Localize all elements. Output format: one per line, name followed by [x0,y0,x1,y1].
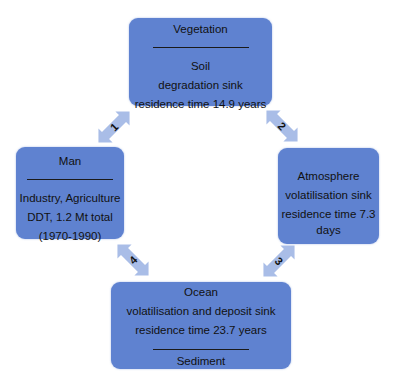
atmosphere-line-1: volatilisation sink [278,186,379,205]
atmosphere-line-3: days [278,224,379,237]
ocean-footer: Sediment [111,352,291,371]
vegetation-divider [153,47,249,48]
vegetation-line-3: residence time 14.9 years [129,95,272,114]
atmosphere-line-2: residence time 7.3 [278,205,379,224]
man-line-2: DDT, 1.2 Mt total [16,208,124,227]
ocean-line-2: residence time 23.7 years [111,321,291,340]
vegetation-node: Vegetation Soil degradation sink residen… [129,18,272,106]
man-divider [27,179,113,180]
double-arrow-2: 2 [260,104,304,148]
man-node: Man Industry, Agriculture DDT, 1.2 Mt to… [16,147,124,239]
ocean-divider [153,349,249,350]
man-title: Man [16,152,124,171]
vegetation-title: Vegetation [129,20,272,39]
man-line-1: Industry, Agriculture [16,189,124,208]
double-arrow-1: 1 [92,105,136,149]
man-line-3: (1970-1990) [16,227,124,246]
double-arrow-3: 3 [257,239,301,283]
ocean-node: Ocean volatilisation and deposit sink re… [111,282,291,369]
vegetation-line-1: Soil [129,57,272,76]
atmosphere-node: Atmosphere volatilisation sink residence… [278,148,379,244]
vegetation-line-2: degradation sink [129,76,272,95]
atmosphere-title: Atmosphere [278,167,379,186]
double-arrow-4: 4 [111,238,155,282]
ocean-line-1: volatilisation and deposit sink [111,302,291,321]
